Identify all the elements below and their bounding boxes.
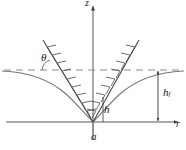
angle-label: θ bbox=[41, 52, 46, 63]
r-axis-label: r bbox=[176, 119, 180, 129]
diagram-svg bbox=[0, 0, 186, 150]
hatch-marks-right bbox=[87, 45, 135, 118]
z-axis-label: z bbox=[85, 0, 89, 8]
hf-label: hf bbox=[163, 87, 170, 98]
meniscus-curve-left bbox=[2, 71, 93, 122]
h-label: h bbox=[104, 104, 110, 115]
hatch-marks-left bbox=[47, 45, 96, 118]
diagram-canvas: θ h hf a r z bbox=[0, 0, 186, 150]
hf-label-subscript: f bbox=[169, 90, 171, 97]
origin-label: a bbox=[91, 131, 97, 142]
